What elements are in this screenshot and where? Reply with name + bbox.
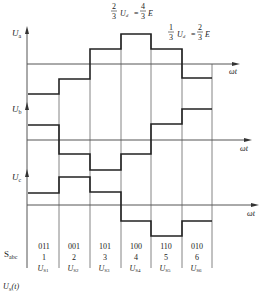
svg-text:6: 6 (195, 253, 199, 262)
svg-text:US1: US1 (37, 264, 49, 273)
svg-text:001: 001 (68, 242, 80, 251)
svg-text:E: E (147, 9, 153, 18)
sector-6: 010 6 US6 (190, 242, 203, 273)
svg-text:5: 5 (164, 253, 168, 262)
ub-axis: Ub ωt (12, 102, 252, 153)
svg-text:Ud: Ud (177, 30, 186, 39)
uc-omega-t-label: ωt (247, 209, 256, 218)
svg-text:=: = (134, 9, 139, 18)
sector-3: 101 3 US3 (98, 242, 111, 273)
svg-text:101: 101 (99, 242, 111, 251)
svg-text:3: 3 (169, 33, 173, 42)
svg-text:3: 3 (112, 12, 116, 21)
svg-text:100: 100 (130, 242, 142, 251)
formula-four-thirds-e: 2 3 Ud = 4 3 E (111, 2, 153, 21)
svg-text:2: 2 (112, 2, 116, 11)
svg-text:US4: US4 (129, 264, 141, 273)
ub-label: Ub (12, 104, 22, 115)
us-row-label: US(t) (3, 282, 19, 292)
svg-text:3: 3 (198, 33, 202, 42)
svg-text:E: E (204, 30, 210, 39)
svg-text:US2: US2 (67, 264, 79, 273)
svg-text:US3: US3 (98, 264, 110, 273)
uc-label: Uc (12, 172, 22, 183)
svg-text:2: 2 (198, 23, 202, 32)
svg-text:US5: US5 (159, 264, 171, 273)
six-step-voltage-diagram: Ua ωt Ub ωt Uc ωt 2 3 Ud = 4 3 E 1 3 Ud (0, 0, 262, 298)
sector-1: 011 1 US1 (37, 242, 49, 273)
sector-2: 001 2 US2 (67, 242, 80, 273)
ua-omega-t-label: ωt (229, 67, 238, 76)
svg-text:US6: US6 (190, 264, 202, 273)
svg-text:4: 4 (134, 253, 138, 262)
sector-gridlines (59, 34, 212, 268)
sabc-row-label: Sabc (4, 249, 18, 260)
svg-text:Ud: Ud (120, 9, 129, 18)
ua-label: Ua (12, 28, 22, 39)
formula-two-thirds-e: 1 3 Ud = 2 3 E (168, 23, 210, 42)
svg-text:3: 3 (103, 253, 107, 262)
svg-text:010: 010 (191, 242, 203, 251)
svg-text:=: = (191, 30, 196, 39)
svg-text:011: 011 (38, 242, 50, 251)
sector-4: 100 4 US4 (129, 242, 142, 273)
svg-text:110: 110 (160, 242, 172, 251)
uc-waveform (28, 177, 212, 236)
ub-omega-t-label: ωt (240, 144, 249, 153)
ua-axis: Ua ωt (12, 26, 240, 268)
svg-text:3: 3 (141, 12, 145, 21)
svg-text:2: 2 (72, 253, 76, 262)
svg-text:1: 1 (169, 23, 173, 32)
svg-text:1: 1 (42, 253, 46, 262)
svg-text:4: 4 (141, 2, 145, 11)
sector-5: 110 5 US5 (159, 242, 171, 273)
